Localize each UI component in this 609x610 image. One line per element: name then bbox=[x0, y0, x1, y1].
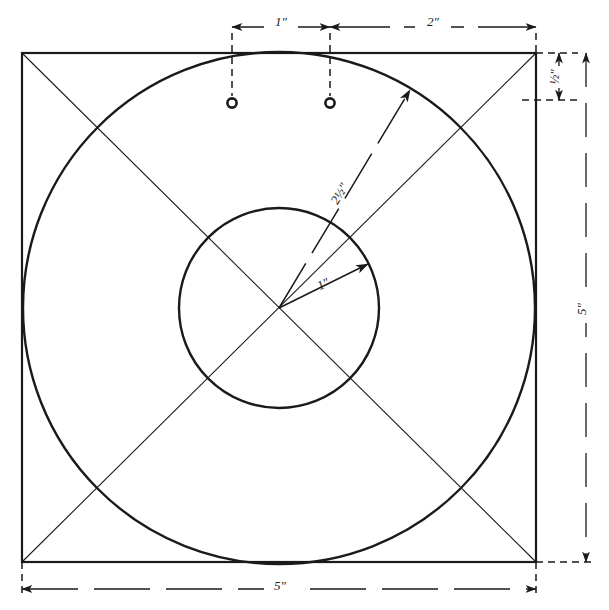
dim-label-right-offset: 2″ bbox=[427, 14, 440, 29]
dim-label-right-height: 5″ bbox=[574, 302, 589, 315]
dim-label-top-inset: ½″ bbox=[547, 69, 562, 85]
hole-left bbox=[227, 98, 236, 107]
dim-label-bottom-width: 5″ bbox=[274, 578, 287, 593]
circle-layout-diagram: 1″ 2″ ½″ 5″ 5″ 2½″ 1″ bbox=[0, 0, 609, 610]
dim-label-inner-radius: 1″ bbox=[314, 274, 332, 293]
hole-right bbox=[325, 98, 334, 107]
technical-drawing-canvas: 1″ 2″ ½″ 5″ 5″ 2½″ 1″ bbox=[0, 0, 609, 610]
dim-label-outer-radius: 2½″ bbox=[327, 180, 351, 207]
dim-label-hole-spacing: 1″ bbox=[275, 14, 288, 29]
